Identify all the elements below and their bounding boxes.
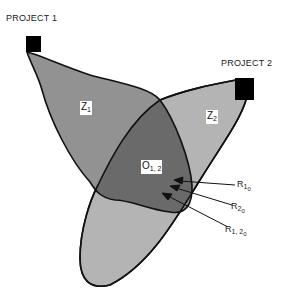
overlap-label: O1, 2: [141, 160, 162, 174]
zone-1-label: Z1: [80, 101, 92, 115]
project-2-marker: [235, 78, 254, 100]
venn-diagram: [0, 0, 284, 302]
pointer-label-r1: R10: [237, 179, 251, 192]
project-1-marker: [26, 36, 41, 52]
pointer-label-r2: R20: [231, 201, 245, 214]
project-1-label: PROJECT 1: [6, 13, 57, 23]
project-2-label: PROJECT 2: [221, 58, 272, 68]
pointer-label-r12: R1, 20: [225, 224, 247, 237]
zone-2-label: Z2: [206, 110, 218, 124]
